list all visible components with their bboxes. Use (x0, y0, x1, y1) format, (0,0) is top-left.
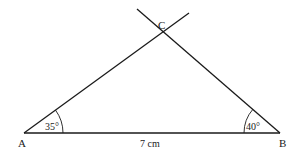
angle-label-a: 35° (45, 121, 59, 132)
vertex-label-b: B (279, 137, 286, 149)
base-length-label: 7 cm (140, 138, 160, 149)
ray-ac (24, 13, 189, 133)
vertex-label-a: A (18, 137, 26, 149)
triangle-diagram: A B C 35° 40° 7 cm (0, 0, 300, 153)
angle-label-b: 40° (246, 121, 260, 132)
vertex-label-c: C (158, 19, 165, 31)
